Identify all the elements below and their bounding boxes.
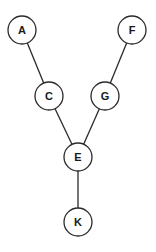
node-f: F [118, 16, 146, 44]
node-e: E [64, 143, 92, 171]
node-label: C [45, 90, 53, 102]
node-label: F [129, 24, 136, 36]
node-label: E [74, 151, 81, 163]
tree-diagram: AFCGEK [0, 0, 156, 252]
node-g: G [91, 82, 119, 110]
node-a: A [8, 16, 36, 44]
node-label: A [18, 24, 26, 36]
node-c: C [35, 82, 63, 110]
nodes-layer: AFCGEK [8, 16, 146, 236]
node-k: K [64, 208, 92, 236]
edges-layer [22, 30, 132, 222]
node-label: G [101, 90, 110, 102]
node-label: K [74, 216, 82, 228]
